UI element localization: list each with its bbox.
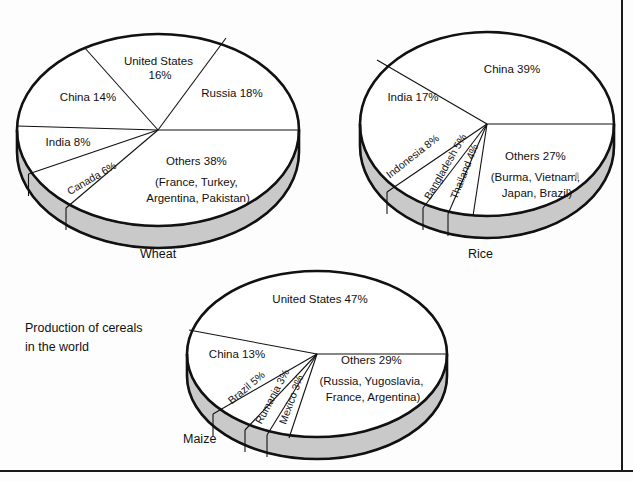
chart-caption-maize: Maize: [183, 432, 216, 446]
pie-chart-rice: China 39% India 17% Indonesia 8% Banglad…: [345, 22, 630, 262]
wheat-label-china: China 14%: [60, 91, 116, 103]
wheat-label-india: India 8%: [46, 136, 91, 148]
figure-caption-line1: Production of cereals: [25, 319, 142, 338]
figure-caption-line2: in the world: [25, 338, 142, 357]
figure-caption: Production of cereals in the world: [25, 319, 142, 358]
maize-label-united-states: United States 47%: [272, 293, 367, 305]
chart-caption-wheat: Wheat: [140, 247, 176, 261]
chart-caption-rice: Rice: [468, 247, 493, 261]
figure-page: United States 16% Russia 18% China 14% I…: [0, 0, 633, 482]
rice-label-china: China 39%: [484, 63, 540, 75]
maize-label-china: China 13%: [209, 348, 265, 360]
wheat-label-russia: Russia 18%: [201, 87, 262, 99]
pie-chart-maize: United States 47% China 13% Brazil 5% Ru…: [175, 262, 465, 474]
scan-artifact-speck: [575, 172, 579, 179]
pie-chart-wheat: United States 16% Russia 18% China 14% I…: [0, 22, 320, 262]
rice-label-india: India 17%: [387, 91, 438, 103]
